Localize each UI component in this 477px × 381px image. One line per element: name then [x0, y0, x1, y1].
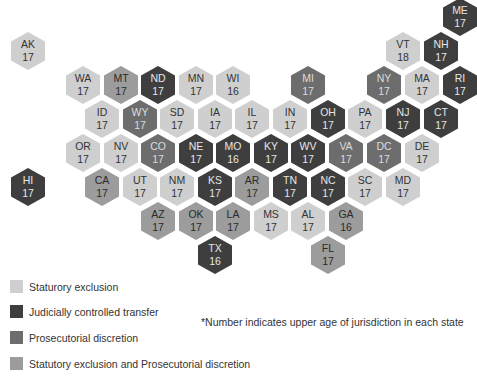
state-abbr: NV: [114, 140, 129, 153]
state-abbr: IL: [248, 106, 257, 119]
state-abbr: AL: [302, 208, 315, 221]
state-age: 17: [246, 187, 258, 200]
state-hex-ct: CT17: [424, 100, 458, 138]
state-hex-nd: ND17: [141, 66, 175, 104]
state-hex-az: AZ17: [141, 202, 175, 240]
legend-swatch-prosecutorial-discretion: [10, 331, 23, 344]
state-abbr: IA: [210, 106, 220, 119]
state-age: 17: [171, 119, 183, 132]
state-hex-la: LA17: [216, 202, 250, 240]
legend-item-statutory-exclusion: Staturory exclusion: [10, 280, 118, 293]
state-age: 17: [322, 187, 334, 200]
state-age: 17: [397, 119, 409, 132]
state-hex-md: MD17: [386, 168, 420, 206]
state-age: 17: [77, 153, 89, 166]
state-age: 17: [302, 153, 314, 166]
state-abbr: MS: [263, 208, 279, 221]
state-hex-wi: WI16: [216, 66, 250, 104]
legend-label: Staturory exclusion: [29, 281, 118, 293]
state-hex-hi: HI17: [11, 168, 45, 206]
state-abbr: IN: [285, 106, 296, 119]
state-age: 17: [359, 119, 371, 132]
state-abbr: OH: [320, 106, 336, 119]
state-hex-ut: UT17: [123, 168, 157, 206]
state-hex-il: IL17: [235, 100, 269, 138]
state-age: 17: [22, 51, 34, 64]
state-age: 17: [435, 51, 447, 64]
state-abbr: ND: [150, 72, 165, 85]
state-hex-ms: MS17: [254, 202, 288, 240]
legend-swatch-both: [10, 357, 23, 370]
state-hex-ri: RI17: [443, 66, 477, 104]
state-age: 18: [397, 51, 409, 64]
legend-swatch-statutory-exclusion: [10, 280, 23, 293]
state-hex-me: ME17: [443, 0, 477, 36]
state-hex-mi: MI17: [291, 66, 325, 104]
state-age: 17: [340, 153, 352, 166]
state-age: 17: [378, 85, 390, 98]
state-hex-ks: KS17: [198, 168, 232, 206]
state-hex-nj: NJ17: [386, 100, 420, 138]
state-abbr: SC: [358, 174, 373, 187]
state-age: 17: [397, 187, 409, 200]
legend-item-prosecutorial-discretion: Prosecutorial discretion: [10, 331, 138, 344]
state-abbr: DC: [376, 140, 391, 153]
state-abbr: KS: [208, 174, 222, 187]
state-abbr: UT: [133, 174, 147, 187]
state-age: 17: [435, 119, 447, 132]
state-age: 17: [22, 187, 34, 200]
state-abbr: VA: [339, 140, 352, 153]
state-abbr: WI: [227, 72, 240, 85]
state-abbr: WV: [300, 140, 317, 153]
state-hex-ky: KY17: [254, 134, 288, 172]
state-age: 17: [190, 221, 202, 234]
state-age: 16: [227, 85, 239, 98]
footnote: *Number indicates upper age of jurisdict…: [201, 316, 464, 328]
state-hex-tx: TX16: [198, 236, 232, 274]
state-age: 16: [227, 153, 239, 166]
state-age: 17: [302, 85, 314, 98]
state-hex-ne: NE17: [179, 134, 213, 172]
state-hex-in: IN17: [273, 100, 307, 138]
state-age: 17: [134, 187, 146, 200]
state-hex-ia: IA17: [198, 100, 232, 138]
state-age: 17: [171, 187, 183, 200]
state-abbr: NC: [320, 174, 335, 187]
state-hex-al: AL17: [291, 202, 325, 240]
state-abbr: AK: [21, 38, 35, 51]
state-abbr: MD: [395, 174, 411, 187]
state-hex-co: CO17: [141, 134, 175, 172]
state-abbr: WA: [75, 72, 92, 85]
state-age: 16: [209, 255, 221, 268]
state-abbr: OK: [188, 208, 203, 221]
state-age: 17: [152, 221, 164, 234]
state-abbr: CO: [150, 140, 166, 153]
state-abbr: MN: [188, 72, 204, 85]
state-abbr: TX: [208, 242, 221, 255]
state-age: 17: [190, 153, 202, 166]
state-abbr: CT: [434, 106, 448, 119]
state-age: 17: [454, 17, 466, 30]
state-abbr: NE: [189, 140, 204, 153]
state-age: 17: [454, 85, 466, 98]
state-age: 17: [152, 153, 164, 166]
state-hex-sd: SD17: [160, 100, 194, 138]
state-abbr: AR: [245, 174, 260, 187]
state-age: 16: [340, 221, 352, 234]
state-abbr: PA: [358, 106, 371, 119]
state-hex-wy: WY17: [123, 100, 157, 138]
state-abbr: NH: [433, 38, 448, 51]
state-hex-fl: FL17: [311, 236, 345, 274]
state-abbr: ID: [97, 106, 108, 119]
state-hex-oh: OH17: [311, 100, 345, 138]
state-abbr: DE: [415, 140, 430, 153]
state-abbr: VT: [396, 38, 409, 51]
state-abbr: NM: [169, 174, 185, 187]
state-abbr: OR: [75, 140, 91, 153]
state-hex-tn: TN17: [273, 168, 307, 206]
state-age: 17: [416, 85, 428, 98]
state-age: 17: [265, 153, 277, 166]
state-hex-nh: NH17: [424, 32, 458, 70]
state-hex-vt: VT18: [386, 32, 420, 70]
state-age: 17: [302, 221, 314, 234]
